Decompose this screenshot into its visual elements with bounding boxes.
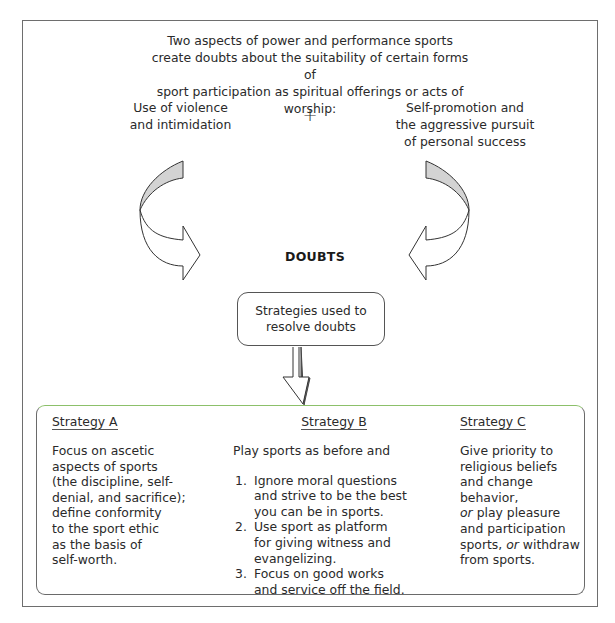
text-line: Ignore moral questions	[254, 473, 433, 489]
strategy-a-title: Strategy A	[52, 414, 118, 430]
text-line: religious beliefs	[460, 459, 585, 475]
text-line: denial, and sacrifice);	[52, 490, 212, 506]
italic-or: or	[460, 505, 473, 520]
strategy-c-title: Strategy C	[460, 414, 526, 430]
list-number: 3.	[235, 566, 247, 582]
text-line: Use sport as platform	[254, 519, 433, 535]
text-line: for giving witness and	[254, 535, 433, 551]
strategy-c-text: Give priority to religious beliefs and c…	[460, 443, 585, 568]
text-line: or play pleasure	[460, 505, 585, 521]
text-line: to the sport ethic	[52, 521, 212, 537]
list-number: 2.	[235, 519, 247, 535]
text-line: evangelizing.	[254, 551, 433, 567]
text-line: aspects of sports	[52, 459, 212, 475]
strategy-b-intro: Play sports as before and	[233, 443, 433, 459]
text-line: you can be in sports.	[254, 504, 433, 520]
list-item: 3. Focus on good works and service off t…	[233, 566, 433, 597]
text-line: Focus on good works	[254, 566, 433, 582]
strategy-a-text: Focus on ascetic aspects of sports (the …	[52, 443, 212, 568]
text-line: and participation	[460, 521, 585, 537]
italic-or: or	[506, 537, 519, 552]
text-line: Give priority to	[460, 443, 585, 459]
list-item: 1. Ignore moral questions and strive to …	[233, 473, 433, 520]
text-line: sports, or withdraw	[460, 537, 585, 553]
strategy-b-list: 1. Ignore moral questions and strive to …	[233, 473, 433, 598]
strategy-b-title: Strategy B	[301, 414, 367, 430]
strategy-a: Strategy A Focus on ascetic aspects of s…	[52, 414, 212, 568]
text-line: and change behavior,	[460, 474, 585, 505]
text-line: as the basis of	[52, 537, 212, 553]
text-line: and strive to be the best	[254, 488, 433, 504]
text-line: (the discipline, self-	[52, 474, 212, 490]
text-line: and service off the field.	[254, 582, 433, 598]
list-number: 1.	[235, 473, 247, 489]
text-line: from sports.	[460, 552, 585, 568]
text-line: define conformity	[52, 505, 212, 521]
list-item: 2. Use sport as platform for giving witn…	[233, 519, 433, 566]
strategy-c: Strategy C Give priority to religious be…	[460, 414, 585, 568]
strategy-b: Strategy B Play sports as before and 1. …	[233, 414, 433, 597]
text-line: self-worth.	[52, 552, 212, 568]
text-line: Focus on ascetic	[52, 443, 212, 459]
